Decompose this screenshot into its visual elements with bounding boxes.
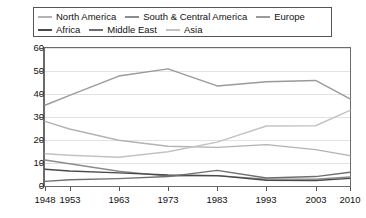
x-tick-mark xyxy=(217,187,218,191)
legend-label-south-central-america: South & Central America xyxy=(143,11,247,22)
legend-item-north-america: North America xyxy=(38,11,116,22)
x-tick-label: 1983 xyxy=(197,194,237,205)
x-tick-label: 1993 xyxy=(246,194,286,205)
series-line-europe xyxy=(45,69,350,105)
legend-swatch-north-america xyxy=(38,16,52,18)
legend-item-africa: Africa xyxy=(38,24,80,35)
x-tick-mark xyxy=(45,187,46,191)
legend-swatch-europe xyxy=(256,16,270,18)
legend-item-middle-east: Middle East xyxy=(89,24,157,35)
y-axis: 6050403020100 xyxy=(12,47,44,188)
legend-item-south-central-america: South & Central America xyxy=(125,11,247,22)
plot-area xyxy=(44,47,351,187)
x-tick-mark xyxy=(119,187,120,191)
x-tick-label: 1973 xyxy=(148,194,188,205)
legend-label-north-america: North America xyxy=(56,11,116,22)
x-tick-mark xyxy=(316,187,317,191)
legend-row-1: North America South & Central America Eu… xyxy=(38,10,327,23)
x-tick-mark xyxy=(266,187,267,191)
x-tick-mark xyxy=(350,187,351,191)
legend-item-europe: Europe xyxy=(256,11,305,22)
x-axis: 19481953196319731983199320032010 xyxy=(44,187,351,213)
legend-row-2: Africa Middle East Asia xyxy=(38,23,327,36)
legend-swatch-asia xyxy=(166,29,180,31)
series-lines xyxy=(45,48,350,186)
x-tick-mark xyxy=(70,187,71,191)
legend-label-europe: Europe xyxy=(274,11,305,22)
x-tick-mark xyxy=(168,187,169,191)
legend-swatch-africa xyxy=(38,29,52,31)
x-tick-label: 1963 xyxy=(99,194,139,205)
legend-swatch-middle-east xyxy=(89,29,103,31)
legend-item-asia: Asia xyxy=(166,24,202,35)
series-line-north-america xyxy=(45,121,350,155)
legend-label-asia: Asia xyxy=(184,24,202,35)
x-tick-label: 2010 xyxy=(330,194,366,205)
chart-screenshot: North America South & Central America Eu… xyxy=(0,0,366,218)
legend-label-africa: Africa xyxy=(56,24,80,35)
legend-label-middle-east: Middle East xyxy=(107,24,157,35)
chart-legend: North America South & Central America Eu… xyxy=(33,7,332,37)
legend-swatch-south-central-america xyxy=(125,16,139,18)
x-tick-label: 1953 xyxy=(50,194,90,205)
